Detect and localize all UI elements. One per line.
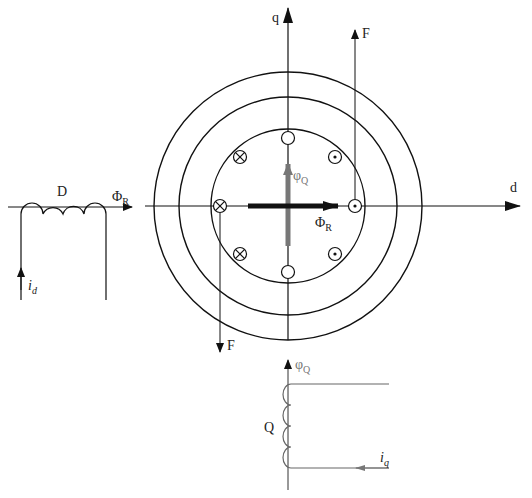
- d-coil-current-label: id: [28, 278, 38, 296]
- force-bottom-label: F: [227, 338, 235, 353]
- conductor-dot-icon: [349, 200, 362, 213]
- q-axis-label: q: [272, 10, 279, 25]
- d-axis-label: d: [510, 180, 517, 195]
- conductor-top-empty-icon: [282, 132, 295, 145]
- q-coil-flux-label: φQ: [295, 357, 311, 375]
- conductor-bottom-empty-icon: [282, 266, 295, 279]
- diagram-canvas: d q: [0, 0, 532, 498]
- phi-r-label: ΦR: [315, 215, 332, 233]
- d-axis: d: [145, 180, 520, 206]
- force-top-label: F: [362, 26, 370, 41]
- d-coil: D ΦR id: [8, 184, 132, 300]
- conductor-cross-icon: [234, 151, 247, 164]
- q-coil: φQ Q iq: [264, 357, 389, 490]
- q-coil-label: Q: [264, 420, 274, 435]
- force-arrow-bottom: F: [220, 213, 235, 353]
- q-coil-current-label: iq: [380, 450, 389, 468]
- phi-q-label: φQ: [293, 168, 309, 186]
- d-coil-label: D: [57, 184, 67, 199]
- d-coil-flux-label: ΦR: [112, 189, 129, 207]
- conductor-cross-icon: [234, 248, 247, 261]
- conductor-dot-icon: [329, 248, 342, 261]
- phi-r-arrow: ΦR: [248, 206, 338, 233]
- conductor-cross-icon: [214, 200, 227, 213]
- conductor-dot-icon: [329, 151, 342, 164]
